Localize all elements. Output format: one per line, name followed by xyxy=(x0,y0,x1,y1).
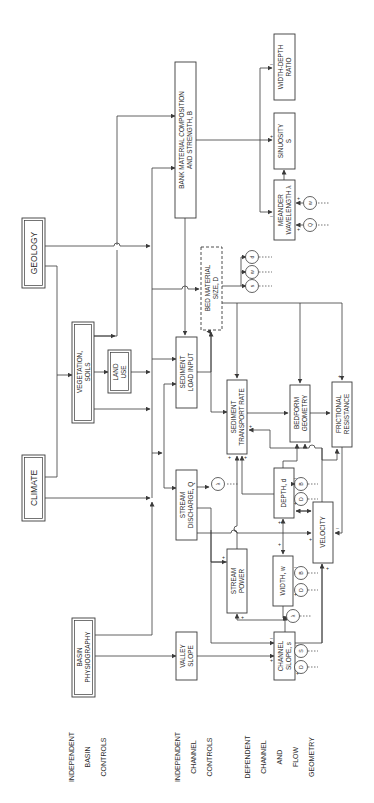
row-label-channel-controls: INDEPENDENT CHANNEL CONTROLS xyxy=(174,731,213,782)
svg-text:TRANSPORT RATE: TRANSPORT RATE xyxy=(238,388,245,446)
svg-text:BASIN: BASIN xyxy=(76,647,83,667)
node-sediment-transport-rate: SEDIMENT TRANSPORT RATE xyxy=(227,380,247,454)
svg-text:DEPENDENT: DEPENDENT xyxy=(244,735,251,779)
node-meander-wavelength: MEANDER WAVELENGTH λ xyxy=(274,180,295,240)
svg-text:CHANNEL: CHANNEL xyxy=(190,740,197,774)
svg-text:FLOW: FLOW xyxy=(292,747,299,768)
svg-text:D: D xyxy=(298,665,304,669)
svg-text:SLOPE: SLOPE xyxy=(187,645,194,666)
svg-text:–: – xyxy=(294,475,297,481)
svg-text:WIDTH-DEPTH: WIDTH-DEPTH xyxy=(277,44,284,89)
svg-text:BED MATERIAL: BED MATERIAL xyxy=(204,264,211,311)
svg-text:GEOMETRY: GEOMETRY xyxy=(301,394,308,431)
svg-text:CONTROLS: CONTROLS xyxy=(206,737,213,776)
svg-text:+: + xyxy=(241,614,244,620)
svg-text:WAVELENGTH λ: WAVELENGTH λ xyxy=(285,185,292,235)
svg-text:–: – xyxy=(270,213,273,219)
svg-text:CHANNEL: CHANNEL xyxy=(260,740,267,774)
node-channel-slope: CHANNEL SLOPE, s xyxy=(274,632,295,680)
svg-text:VALLEY: VALLEY xyxy=(179,643,186,667)
svg-text:PHYSIOGRAPHY: PHYSIOGRAPHY xyxy=(84,631,91,683)
svg-text:S: S xyxy=(298,649,304,653)
svg-text:+: + xyxy=(294,591,297,597)
fluvial-system-diagram: INDEPENDENT BASIN CONTROLS INDEPENDENT C… xyxy=(0,0,374,803)
node-bank-material: BANK MATERIAL COMPOSITION AND STRENGTH, … xyxy=(175,62,196,218)
svg-text:BANK MATERIAL COMPOSITION: BANK MATERIAL COMPOSITION xyxy=(178,91,185,189)
node-stream-discharge: STREAM DISCHARGE, Q xyxy=(176,470,197,540)
node-bedform-geometry: BEDFORM GEOMETRY xyxy=(290,385,310,442)
svg-text:w: w xyxy=(249,270,255,274)
svg-text:WIDTH, w: WIDTH, w xyxy=(279,566,286,595)
svg-text:D: D xyxy=(298,497,304,501)
svg-text:–: – xyxy=(234,371,237,377)
svg-text:+: + xyxy=(278,541,281,547)
svg-text:LAND: LAND xyxy=(112,363,119,380)
svg-text:INDEPENDENT: INDEPENDENT xyxy=(68,731,75,782)
node-vegetation-soils: VEGETATION, SOILS xyxy=(72,322,94,423)
node-width: WIDTH, w xyxy=(273,556,293,606)
svg-text:–: – xyxy=(336,525,339,531)
svg-text:RATIO: RATIO xyxy=(285,57,292,76)
svg-text:+: + xyxy=(294,500,297,506)
svg-text:B: B xyxy=(298,571,304,575)
svg-text:–: – xyxy=(294,564,297,570)
svg-text:GEOLOGY: GEOLOGY xyxy=(29,231,39,274)
node-land-use: LAND USE xyxy=(108,350,131,393)
svg-text:B: B xyxy=(298,482,304,486)
svg-text:DISCHARGE, Q: DISCHARGE, Q xyxy=(187,482,195,529)
svg-text:STREAM: STREAM xyxy=(230,568,237,595)
circle-bed-s: s xyxy=(246,280,259,293)
svg-text:+: + xyxy=(326,565,329,571)
svg-text:–: – xyxy=(270,635,273,641)
node-bed-material-size: BED MATERIAL SIZE, D xyxy=(201,247,222,330)
node-geology: GEOLOGY xyxy=(22,218,45,288)
svg-text:MEANDER: MEANDER xyxy=(277,194,284,226)
svg-text:CHANNEL: CHANNEL xyxy=(277,640,284,671)
svg-text:+: + xyxy=(222,554,225,560)
svg-text:CONTROLS: CONTROLS xyxy=(100,737,107,776)
node-sinuosity: SINUOSITY S xyxy=(274,113,295,169)
svg-text:+: + xyxy=(228,454,231,460)
svg-text:SIZE, D: SIZE, D xyxy=(212,276,219,299)
svg-text:SEDIMENT: SEDIMENT xyxy=(179,355,186,388)
node-velocity: VELOCITY xyxy=(313,502,333,563)
svg-text:FRICTIONAL: FRICTIONAL xyxy=(335,395,342,433)
circle-width-lambda: λ xyxy=(287,610,300,623)
svg-text:–: – xyxy=(270,61,273,67)
svg-text:s: s xyxy=(249,284,255,287)
svg-text:SEDIMENT: SEDIMENT xyxy=(230,400,237,433)
svg-text:+: + xyxy=(270,657,273,663)
svg-text:D: D xyxy=(298,588,304,592)
node-width-depth-ratio: WIDTH-DEPTH RATIO xyxy=(274,34,295,100)
svg-text:–: – xyxy=(296,642,299,648)
svg-text:d: d xyxy=(249,255,255,258)
svg-text:+: + xyxy=(309,536,312,542)
svg-text:+: + xyxy=(297,226,300,232)
svg-text:INDEPENDENT: INDEPENDENT xyxy=(174,731,181,782)
node-frictional-resistance: FRICTIONAL RESISTANCE xyxy=(332,382,352,447)
svg-text:w: w xyxy=(307,201,313,205)
svg-text:Q: Q xyxy=(307,223,313,227)
circle-lambda-q: λ xyxy=(212,478,225,491)
svg-text:DEPTH, d: DEPTH, d xyxy=(280,478,287,507)
node-valley-slope: VALLEY SLOPE xyxy=(176,632,197,680)
node-sediment-load-input: SEDIMENT LOAD INPUT xyxy=(176,337,197,408)
circle-bed-w: w xyxy=(246,266,259,279)
svg-text:+: + xyxy=(270,133,273,139)
svg-text:SINUOSITY: SINUOSITY xyxy=(277,123,284,158)
svg-text:+: + xyxy=(338,373,341,379)
node-climate: CLIMATE xyxy=(22,455,45,521)
svg-text:+: + xyxy=(297,195,300,201)
svg-text:+: + xyxy=(296,670,299,676)
row-label-dependent-geometry: DEPENDENT CHANNEL AND FLOW GEOMETRY xyxy=(244,735,315,779)
svg-text:SLOPE, s: SLOPE, s xyxy=(285,642,292,670)
svg-text:λ: λ xyxy=(215,482,221,485)
svg-text:STREAM: STREAM xyxy=(179,492,186,519)
node-depth: DEPTH, d xyxy=(274,468,294,518)
svg-text:+: + xyxy=(244,454,247,460)
svg-text:AND STRENGTH, B: AND STRENGTH, B xyxy=(186,111,193,169)
svg-text:BEDFORM: BEDFORM xyxy=(293,397,300,429)
svg-text:LOAD INPUT: LOAD INPUT xyxy=(187,353,194,391)
svg-text:VELOCITY: VELOCITY xyxy=(319,515,326,547)
svg-text:BASIN: BASIN xyxy=(84,746,91,767)
